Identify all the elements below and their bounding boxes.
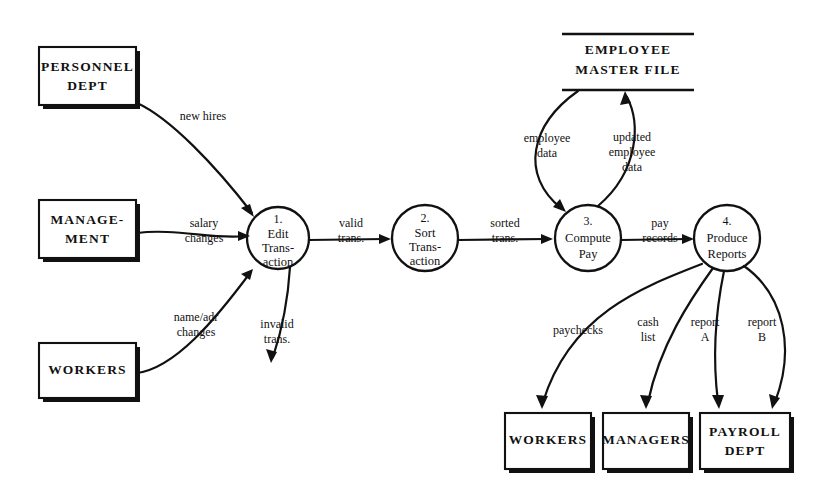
entity-label-line: MANAGERS [602,432,690,447]
flow-label-line: records [642,231,678,245]
flow-label-line: A [701,330,710,344]
data-flow-diagram-canvas: PERSONNEL DEPT MANAGE- MENT WORKERS EMPL… [0,0,826,496]
entity-label-line: WORKERS [48,362,127,377]
process-label-line: Trans- [262,241,294,255]
process-label-line: Trans- [409,240,441,254]
entity-management[interactable]: MANAGE- MENT [39,200,140,262]
process-number: 3. [584,214,593,228]
flow-label-line: new hires [180,109,227,123]
store-label-line: EMPLOYEE [585,42,671,57]
process-label-line: Reports [708,247,747,261]
process-compute-pay[interactable]: 3. Compute Pay [555,205,621,271]
flow-arrowhead [379,234,391,244]
dfd-svg-surface: PERSONNEL DEPT MANAGE- MENT WORKERS EMPL… [0,0,826,496]
process-label-line: Pay [579,247,599,261]
flow-report-b[interactable]: report B [744,266,785,409]
flow-label-line: data [622,160,643,174]
flow-arrowhead [620,91,631,105]
process-label-line: Compute [565,231,611,245]
process-number: 1. [274,212,283,226]
entity-box [39,47,136,105]
flow-arrowhead [541,234,553,244]
flow-label-line: changes [185,231,224,245]
flow-arrowhead [241,204,254,217]
flow-label-line: valid [339,216,363,230]
flow-updated-employee-data[interactable]: updated employee data [598,91,655,206]
process-label-line: action [410,254,441,268]
process-label-line: Produce [707,231,748,245]
flow-label-line: data [537,146,558,160]
entity-managers-sink[interactable]: MANAGERS [602,413,693,473]
flow-label-line: salary [190,216,219,230]
flow-label-line: sorted [490,216,519,230]
flow-arrowhead [553,199,566,212]
process-label-line: Sort [415,226,436,240]
entity-workers-source[interactable]: WORKERS [39,343,140,402]
store-label-line: MASTER FILE [575,62,680,77]
process-label-line: Edit [268,227,289,241]
process-edit-transaction[interactable]: 1. Edit Trans- action [247,207,309,269]
process-produce-reports[interactable]: 4. Produce Reports [694,205,760,271]
entity-payroll-dept-sink[interactable]: PAYROLL DEPT [700,413,794,473]
flow-label-line: trans. [338,231,364,245]
entity-label-line: PERSONNEL [41,59,134,74]
flow-name-adr-changes[interactable]: name/adr changes [137,269,253,373]
flow-arrowhead [769,394,780,409]
flow-arrowhead [640,395,652,409]
flow-invalid-trans[interactable]: invalid trans. [260,267,293,363]
flow-label-line: employee [524,131,571,145]
flow-label-line: updated [613,130,651,144]
flow-label-line: cash [637,315,658,329]
entity-box [700,413,790,469]
flow-line [715,271,724,402]
entity-box [39,200,136,258]
entity-workers-sink[interactable]: WORKERS [505,413,595,473]
flow-label-line: report [748,315,777,329]
entity-label-line: WORKERS [509,432,588,447]
flow-valid-trans[interactable]: valid trans. [309,216,391,245]
flow-label-line: paychecks [553,323,603,337]
flow-sorted-trans[interactable]: sorted trans. [458,216,553,245]
flow-pay-records[interactable]: pay records [621,216,694,245]
entity-label-line: MENT [65,231,110,246]
flow-paychecks[interactable]: paychecks [536,264,702,409]
flow-label-line: pay [651,216,668,230]
flow-label-line: report [691,315,720,329]
process-number: 4. [723,214,732,228]
entity-label-line: DEPT [725,443,766,458]
flow-label-line: invalid [260,317,293,331]
entity-personnel-dept[interactable]: PERSONNEL DEPT [39,47,140,109]
entity-label-line: MANAGE- [50,212,124,227]
flow-arrowhead [536,395,548,409]
flow-label-line: name/adr [174,310,219,324]
data-store-employee-master-file[interactable]: EMPLOYEE MASTER FILE [562,34,694,90]
flow-label-line: B [758,330,766,344]
flow-label-line: trans. [264,332,290,346]
entity-label-line: DEPT [67,78,108,93]
flow-salary-changes[interactable]: salary changes [137,216,250,245]
flow-label-line: employee [609,145,656,159]
flow-label-line: changes [177,325,216,339]
flow-label-line: trans. [492,231,518,245]
flow-arrowhead [682,234,694,244]
flow-arrowhead [712,395,724,409]
entity-label-line: PAYROLL [709,424,781,439]
process-number: 2. [421,211,430,225]
flow-label-line: list [641,330,656,344]
process-sort-transaction[interactable]: 2. Sort Trans- action [392,205,458,271]
flow-employee-data[interactable]: employee data [524,91,578,212]
flow-new-hires[interactable]: new hires [137,103,254,217]
